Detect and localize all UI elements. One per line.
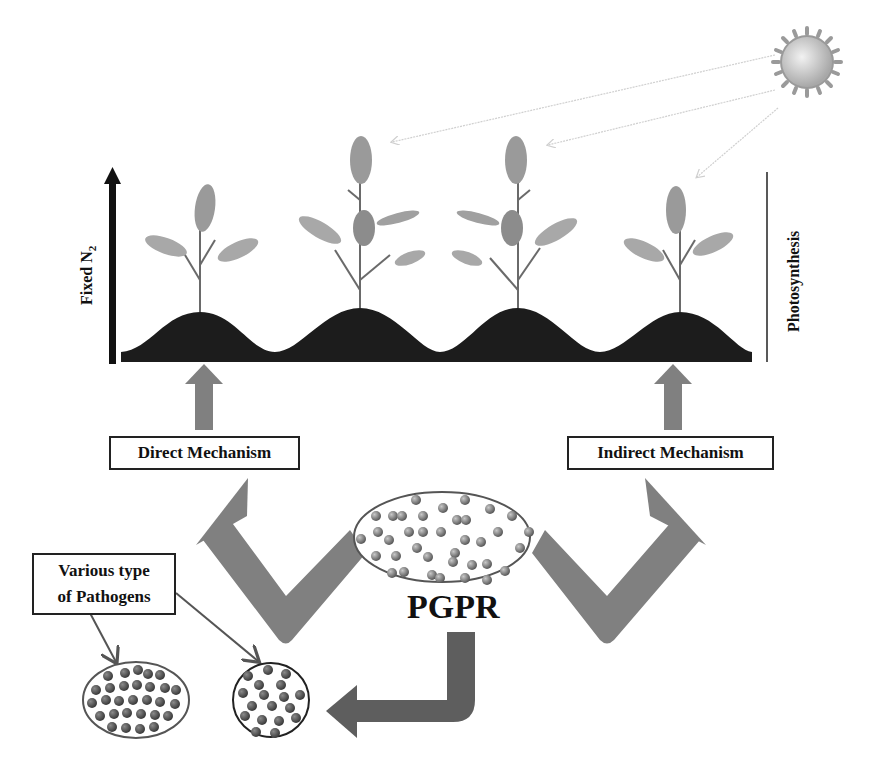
pgpr-to-direct-arrow	[203, 520, 366, 644]
soil-mounds	[121, 308, 752, 362]
pathogen-cluster-dense	[83, 662, 189, 738]
pathogens-box-line1: Various type	[34, 558, 174, 584]
fixed-n2-label: Fixed N2	[78, 246, 98, 305]
pathogens-box: Various type of Pathogens	[32, 553, 176, 615]
direct-mechanism-box: Direct Mechanism	[109, 436, 300, 470]
photosynthesis-label: Photosynthesis	[785, 231, 803, 332]
pgpr-bacteria-cluster	[354, 492, 534, 585]
pathogen-pointer-left	[90, 613, 116, 662]
indirect-mechanism-box: Indirect Mechanism	[567, 436, 774, 470]
plant-icon	[143, 136, 737, 312]
up-arrow-indirect	[654, 364, 692, 430]
pgpr-to-pathogen-arrow	[356, 632, 475, 722]
pgpr-label: PGPR	[407, 588, 500, 626]
diagram-canvas	[0, 0, 874, 767]
sunlight-rays	[392, 55, 778, 177]
up-arrow-direct	[185, 364, 223, 430]
pathogens-box-line2: of Pathogens	[34, 584, 174, 610]
pathogen-pointer-right	[176, 593, 258, 661]
pathogen-cluster-sparse	[233, 663, 309, 738]
pgpr-to-indirect-arrow	[532, 520, 700, 644]
pgpr-to-pathogen-arrowhead	[326, 685, 357, 738]
sun-icon	[773, 28, 841, 96]
fixed-n2-axis-arrow	[104, 167, 121, 364]
